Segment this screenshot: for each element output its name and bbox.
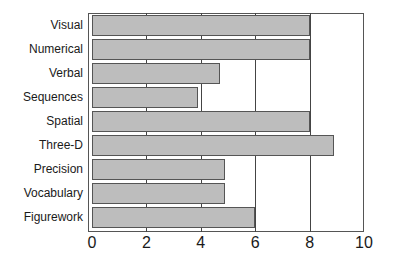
bar-visual: [92, 15, 310, 36]
bar-sequences: [92, 87, 198, 108]
x-tick-label: 2: [142, 234, 151, 252]
category-label: Visual: [51, 18, 83, 32]
category-label: Sequences: [23, 90, 83, 104]
category-label: Vocabulary: [24, 186, 83, 200]
x-tick-label: 6: [251, 234, 260, 252]
category-label: Numerical: [29, 42, 83, 56]
bar-spatial: [92, 111, 310, 132]
x-tick-label: 4: [196, 234, 205, 252]
bar-figurework: [92, 207, 255, 228]
category-label: Precision: [34, 162, 83, 176]
horizontal-bar-chart: VisualNumericalVerbalSequencesSpatialThr…: [0, 0, 399, 264]
category-label: Spatial: [46, 114, 83, 128]
bar-numerical: [92, 39, 310, 60]
x-tick-label: 10: [355, 234, 373, 252]
category-label: Three-D: [39, 138, 83, 152]
category-label: Verbal: [49, 66, 83, 80]
bar-three-d: [92, 135, 334, 156]
bar-vocabulary: [92, 183, 225, 204]
category-label: Figurework: [24, 210, 83, 224]
x-tick-label: 0: [88, 234, 97, 252]
x-tick-label: 8: [305, 234, 314, 252]
gridline: [310, 13, 311, 232]
bar-precision: [92, 159, 225, 180]
bar-verbal: [92, 63, 220, 84]
